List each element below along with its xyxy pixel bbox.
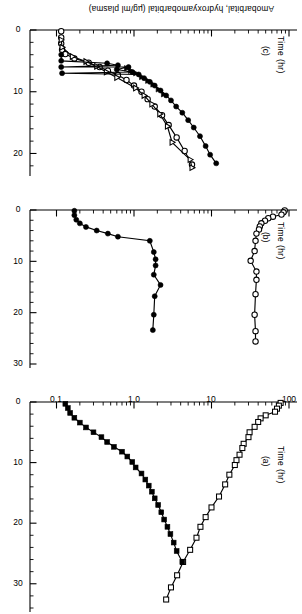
panel-c-plot: 01020	[0, 0, 302, 178]
panel-b-label: (b)	[261, 232, 271, 242]
svg-text:20: 20	[13, 148, 23, 158]
panel-c: 01020 Time (hr) (c)	[0, 0, 302, 178]
yaxis-title: Amobarbital, hydroxyamobarbital (µg/ml p…	[88, 4, 274, 14]
panel-a-plot: 0102030	[0, 372, 302, 614]
svg-text:10: 10	[13, 86, 23, 96]
panel-a-xaxis-title: Time (hr)	[276, 446, 286, 484]
yaxis-tick-label: 0.1	[51, 394, 63, 404]
yaxis-tick-label: 100	[282, 394, 296, 404]
panel-c-xaxis-title: Time (hr)	[276, 36, 286, 74]
svg-text:30: 30	[13, 358, 23, 368]
svg-text:0: 0	[16, 24, 21, 34]
panel-c-label: (c)	[261, 46, 271, 56]
svg-text:0: 0	[16, 396, 21, 406]
svg-text:20: 20	[13, 517, 23, 527]
figure-root: 01020 Time (hr) (c) 0102030 Time (hr) (b…	[0, 0, 302, 614]
yaxis-tick-label: 1.0	[128, 394, 140, 404]
svg-text:30: 30	[13, 578, 23, 588]
panel-b-plot: 0102030	[0, 180, 302, 370]
panel-a: 0102030 Time (hr) (a) 100101.00.1	[0, 372, 302, 614]
svg-text:20: 20	[13, 307, 23, 317]
panel-a-label: (a)	[261, 456, 271, 466]
panel-b-xaxis-title: Time (hr)	[276, 222, 286, 260]
yaxis-tick-label: 10	[207, 394, 216, 404]
svg-text:0: 0	[16, 204, 21, 214]
svg-text:10: 10	[13, 457, 23, 467]
figure-rotated-canvas: 01020 Time (hr) (c) 0102030 Time (hr) (b…	[0, 0, 302, 614]
panel-b: 0102030 Time (hr) (b)	[0, 180, 302, 370]
svg-text:10: 10	[13, 256, 23, 266]
